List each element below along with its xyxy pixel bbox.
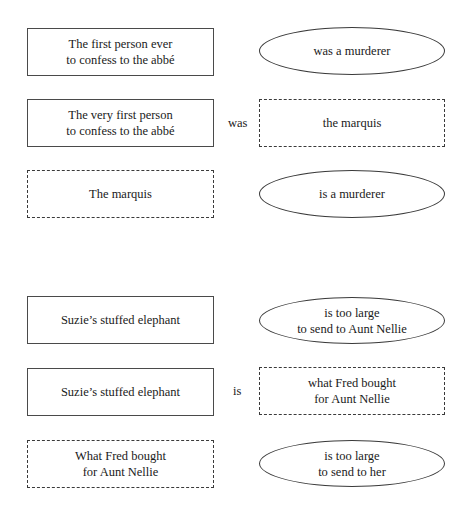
predicate-ellipse-is-a-murderer: is a murderer (259, 170, 445, 218)
predicate-ellipse-was-a-murderer: was a murderer (259, 27, 445, 75)
subject-box-suzies-elephant: Suzie’s stuffed elephant (27, 296, 214, 344)
subject-box-what-fred-bought: What Fred bought for Aunt Nellie (27, 440, 214, 488)
focus-box-what-fred-bought: what Fred bought for Aunt Nellie (259, 367, 445, 415)
subject-box-first-person: The first person ever to confess to the … (27, 28, 214, 76)
subject-box-very-first-person: The very first person to confess to the … (27, 99, 214, 147)
subject-box-the-marquis: The marquis (27, 170, 214, 218)
copula-is: is (233, 383, 241, 399)
predicate-ellipse-too-large-her: is too large to send to her (259, 440, 445, 487)
predicate-ellipse-too-large-aunt-nellie: is too large to send to Aunt Nellie (259, 297, 445, 344)
copula-was: was (228, 115, 247, 131)
subject-box-suzies-elephant-2: Suzie’s stuffed elephant (27, 368, 214, 416)
focus-box-the-marquis: the marquis (259, 99, 445, 147)
